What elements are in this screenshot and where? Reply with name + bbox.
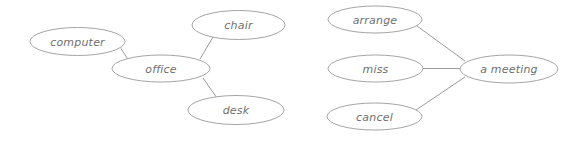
node-group-office-cluster: computer office chair desk: [30, 11, 285, 125]
node-a-meeting[interactable]: a meeting: [460, 55, 558, 83]
semantic-network-graph: computer office chair desk arrange: [0, 0, 578, 145]
node-label-arrange: arrange: [353, 14, 398, 27]
node-office[interactable]: office: [112, 55, 210, 82]
node-label-miss: miss: [362, 63, 388, 76]
node-label-computer: computer: [50, 36, 106, 49]
node-label-cancel: cancel: [356, 111, 393, 124]
node-label-office: office: [145, 63, 177, 76]
edge-office-desk: [203, 78, 217, 98]
edge-cancel-a-meeting: [416, 77, 465, 110]
node-label-a-meeting: a meeting: [480, 63, 538, 76]
node-cancel[interactable]: cancel: [327, 103, 422, 130]
node-group-meeting-cluster: arrange miss cancel a meeting: [327, 6, 558, 130]
diagram-canvas: computer office chair desk arrange: [0, 0, 578, 145]
edge-computer-office: [121, 49, 128, 60]
node-label-desk: desk: [223, 104, 250, 117]
node-chair[interactable]: chair: [192, 11, 285, 40]
node-label-chair: chair: [224, 19, 254, 32]
node-arrange[interactable]: arrange: [328, 6, 422, 33]
edge-office-chair: [200, 37, 213, 59]
edge-arrange-a-meeting: [417, 26, 465, 61]
node-desk[interactable]: desk: [188, 96, 284, 125]
node-miss[interactable]: miss: [328, 55, 423, 82]
node-computer[interactable]: computer: [30, 28, 125, 56]
